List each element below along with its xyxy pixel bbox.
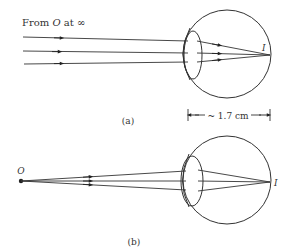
ray-b-3-outer bbox=[21, 181, 186, 190]
caption-b: (b) bbox=[128, 237, 141, 247]
ray-b-1-outer bbox=[21, 171, 186, 181]
ray-a-3-outer bbox=[24, 62, 188, 64]
ray-a-2-outer bbox=[23, 51, 188, 53]
lens-a bbox=[184, 31, 202, 79]
eye-optics-diagram: From O at ∞ I ~ 1.7 cm bbox=[0, 0, 288, 248]
arrow-a-6 bbox=[212, 60, 220, 61]
figure-a: From O at ∞ I ~ 1.7 cm bbox=[22, 10, 271, 126]
object-label: O bbox=[17, 166, 25, 176]
image-label-a: I bbox=[261, 43, 266, 53]
arrow-a-4 bbox=[212, 44, 220, 46]
dimension-indicator: ~ 1.7 cm bbox=[188, 109, 270, 121]
source-label: From O at ∞ bbox=[22, 17, 85, 28]
ray-b-2-inner bbox=[198, 181, 270, 182]
dimension-label: ~ 1.7 cm bbox=[207, 111, 249, 121]
ray-b-3-inner bbox=[198, 182, 270, 191]
ray-a-3-inner bbox=[197, 55, 270, 62]
caption-a: (a) bbox=[122, 116, 134, 126]
ray-a-1-outer bbox=[23, 37, 188, 41]
ray-b-1-inner bbox=[198, 170, 270, 182]
arrow-b-1 bbox=[83, 177, 91, 178]
image-label-b: I bbox=[273, 178, 278, 188]
figure-b: O I (b) bbox=[17, 136, 278, 247]
